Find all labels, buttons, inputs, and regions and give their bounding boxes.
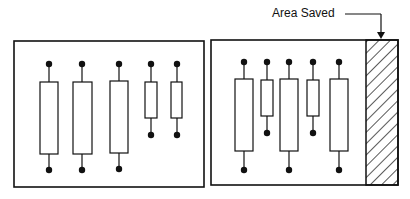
- component-body: [261, 80, 273, 116]
- layout-comparison-diagram: [0, 0, 410, 199]
- component-short: [261, 59, 273, 136]
- component-body: [171, 82, 182, 118]
- original-layout-board: [14, 41, 204, 187]
- pin-dot-icon: [310, 59, 316, 65]
- component-long: [235, 59, 253, 173]
- pin-dot-icon: [174, 61, 180, 67]
- pin-dot-icon: [310, 130, 316, 136]
- area-saved-arrow: [345, 14, 385, 39]
- pin-dot-icon: [286, 59, 292, 65]
- pin-dot-icon: [148, 61, 154, 67]
- component-body: [145, 82, 157, 118]
- pin-dot-icon: [116, 166, 122, 172]
- hatched-saved-area: [366, 40, 398, 185]
- pin-dot-icon: [46, 61, 52, 67]
- component-body: [40, 82, 58, 154]
- component-body: [73, 82, 92, 154]
- component-short: [171, 61, 182, 138]
- component-long: [110, 61, 128, 172]
- pin-dot-icon: [286, 167, 292, 173]
- pin-dot-icon: [79, 61, 85, 67]
- pin-dot-icon: [79, 167, 85, 173]
- component-body: [280, 79, 298, 151]
- pin-dot-icon: [116, 61, 122, 67]
- pin-dot-icon: [148, 132, 154, 138]
- component-long: [40, 61, 58, 173]
- component-long: [73, 61, 92, 173]
- pin-dot-icon: [241, 167, 247, 173]
- component-body: [307, 80, 319, 116]
- component-long: [280, 59, 298, 173]
- pin-dot-icon: [336, 59, 342, 65]
- pin-dot-icon: [46, 167, 52, 173]
- component-long: [330, 59, 348, 173]
- component-body: [330, 79, 348, 151]
- pin-dot-icon: [174, 132, 180, 138]
- pin-dot-icon: [264, 59, 270, 65]
- arrow-head-icon: [377, 32, 385, 39]
- pin-dot-icon: [336, 167, 342, 173]
- component-short: [307, 59, 319, 136]
- optimized-layout-board: [211, 40, 398, 185]
- component-body: [235, 79, 253, 151]
- pin-dot-icon: [241, 59, 247, 65]
- pin-dot-icon: [264, 130, 270, 136]
- component-body: [110, 81, 128, 153]
- component-short: [145, 61, 157, 138]
